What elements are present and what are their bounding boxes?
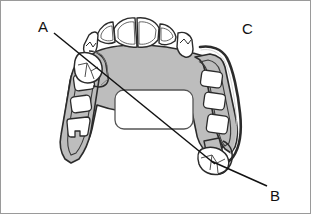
left-abutment-premolar [74,52,102,83]
right-window-2 [203,92,226,111]
right-window-3 [206,114,229,135]
right-abutment-molar [198,147,229,174]
canine-right [177,32,193,57]
palatal-opening [115,90,193,129]
figure-label-c: C [242,21,253,36]
left-window-2 [70,95,92,114]
right-window-1 [200,70,223,89]
figure-label-b: B [270,188,280,203]
figure-label-a: A [38,19,48,34]
incisor-right-lateral [159,24,176,45]
figure-frame: A B C [0,0,311,214]
